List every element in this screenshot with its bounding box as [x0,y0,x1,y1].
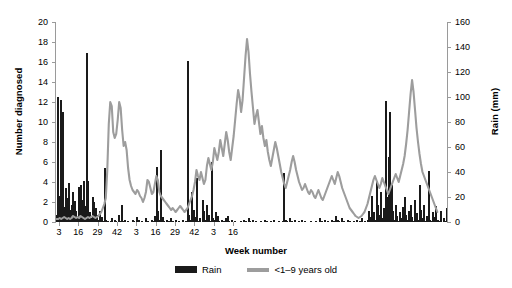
age-group-line-series [56,22,447,222]
y-axis-left-title: Number diagnosed [13,42,24,182]
y-axis-left-tick-12: 12 [26,98,48,107]
y-axis-left-tick-14: 14 [26,78,48,87]
x-axis-tickmark [98,222,99,226]
x-axis-title: Week number [0,245,512,256]
y-axis-right-tickmark [447,222,451,223]
x-axis-tickmark [214,222,215,226]
y-axis-left-tick-16: 16 [26,58,48,67]
x-axis-tickmark [233,222,234,226]
y-axis-left-tick-18: 18 [26,38,48,47]
legend-swatch-age-group [247,268,269,272]
y-axis-left-tick-4: 4 [26,178,48,187]
y-axis-left-tick-8: 8 [26,138,48,147]
y-axis-left-tick-0: 0 [26,218,48,227]
y-axis-right-tick-120: 120 [455,68,479,77]
y-axis-right-tick-140: 140 [455,43,479,52]
x-axis-tickmark [194,222,195,226]
legend-swatch-rain [175,266,197,273]
x-axis-tickmark [78,222,79,226]
y-axis-right-tick-20: 20 [455,193,479,202]
chart-legend: Rain <1–9 years old [0,264,512,275]
y-axis-right-tick-60: 60 [455,143,479,152]
y-axis-left-tickmark [52,222,56,223]
legend-item-age-group: <1–9 years old [247,264,337,275]
x-axis-tickmark [117,222,118,226]
y-axis-left-tick-2: 2 [26,198,48,207]
y-axis-right-title: Rain (mm) [489,42,500,182]
x-axis-tickmark [59,222,60,226]
legend-item-rain: Rain [175,264,222,275]
x-axis-tickmark [175,222,176,226]
y-axis-left-tick-20: 20 [26,18,48,27]
y-axis-right-tick-160: 160 [455,18,479,27]
x-axis-tickmark [136,222,137,226]
y-axis-right-tick-0: 0 [455,218,479,227]
legend-label-rain: Rain [202,264,222,275]
x-axis-tick-label-9: 16 [218,228,248,237]
line-path [57,39,438,219]
y-axis-right-tick-100: 100 [455,93,479,102]
y-axis-right-tick-40: 40 [455,168,479,177]
y-axis-right-tick-80: 80 [455,118,479,127]
chart-figure: Number diagnosed Rain (mm) Week number 0… [0,0,512,288]
y-axis-right-spine [447,22,448,222]
plot-area [56,22,447,222]
legend-label-age-group: <1–9 years old [274,264,337,275]
y-axis-left-tick-10: 10 [26,118,48,127]
x-axis-tickmark [156,222,157,226]
y-axis-left-tick-6: 6 [26,158,48,167]
